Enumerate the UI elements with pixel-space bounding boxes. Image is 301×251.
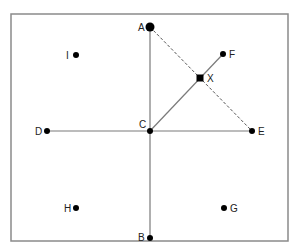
point-b-marker xyxy=(147,235,153,241)
geometry-diagram: ABCDEFXIHG xyxy=(0,0,301,251)
point-a-marker xyxy=(146,23,155,32)
point-x-label: X xyxy=(207,73,214,84)
point-e-label: E xyxy=(258,126,265,137)
point-x-marker xyxy=(197,75,204,82)
point-i-label: I xyxy=(66,50,69,61)
point-d-marker xyxy=(44,128,50,134)
point-c-marker xyxy=(147,128,153,134)
point-e-marker xyxy=(249,128,255,134)
point-i-marker xyxy=(73,52,79,58)
point-c-label: C xyxy=(139,119,146,130)
point-h-label: H xyxy=(64,203,71,214)
point-g-label: G xyxy=(230,203,238,214)
point-h-marker xyxy=(73,205,79,211)
point-b-label: B xyxy=(138,232,145,243)
point-f-marker xyxy=(220,51,226,57)
point-d-label: D xyxy=(35,126,42,137)
segment-cf xyxy=(150,54,223,131)
point-g-marker xyxy=(221,205,227,211)
point-a-label: A xyxy=(138,22,145,33)
point-f-label: F xyxy=(229,49,235,60)
